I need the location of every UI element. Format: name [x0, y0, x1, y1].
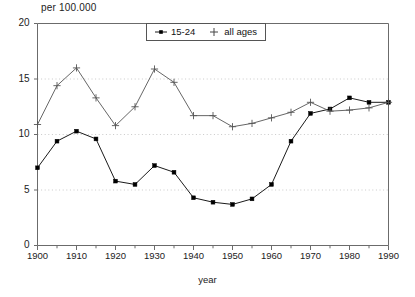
data-point	[346, 106, 353, 113]
data-point	[211, 200, 215, 204]
y-tick-label: 10	[4, 128, 30, 139]
x-tick-label: 1940	[174, 250, 214, 261]
chart-legend: 15-24all ages	[146, 23, 266, 41]
data-point	[365, 104, 372, 111]
x-tick-label: 1900	[18, 250, 58, 261]
legend-item-all-ages: all ages	[207, 27, 257, 37]
x-axis-title: year	[0, 274, 415, 285]
data-point	[55, 139, 59, 143]
data-point	[307, 99, 314, 106]
data-point	[229, 123, 236, 130]
data-point	[114, 179, 118, 183]
data-point	[248, 120, 255, 127]
data-point	[170, 79, 177, 86]
data-point	[151, 65, 158, 72]
x-tick-label: 1950	[213, 250, 253, 261]
data-point	[34, 121, 41, 128]
data-point	[153, 164, 157, 168]
data-point	[289, 139, 293, 143]
legend-label: 15-24	[171, 27, 195, 37]
data-point	[94, 137, 98, 141]
data-point	[268, 114, 275, 121]
data-point	[231, 203, 235, 207]
data-point	[192, 196, 196, 200]
data-point	[133, 183, 137, 187]
x-tick-label: 1960	[252, 250, 292, 261]
x-tick-label: 1970	[291, 250, 331, 261]
data-point	[367, 100, 371, 104]
data-point	[348, 96, 352, 100]
data-point	[270, 183, 274, 187]
x-tick-label: 1980	[330, 250, 370, 261]
x-tick-label: 1910	[57, 250, 97, 261]
data-point	[36, 166, 40, 170]
chart-container: per 100.000 05101520 1900191019201930194…	[0, 0, 415, 297]
y-tick-label: 15	[4, 73, 30, 84]
data-point	[209, 112, 216, 119]
data-point	[385, 99, 392, 106]
data-point	[190, 112, 197, 119]
y-tick-label: 5	[4, 184, 30, 195]
data-point	[92, 94, 99, 101]
data-point	[75, 129, 79, 133]
y-tick-label: 0	[4, 239, 30, 250]
square-marker-icon	[154, 27, 168, 37]
plus-marker-icon	[207, 27, 221, 37]
legend-label: all ages	[224, 27, 257, 37]
data-point	[172, 170, 176, 174]
x-tick-label: 1930	[135, 250, 175, 261]
data-point	[250, 197, 254, 201]
data-point	[287, 109, 294, 116]
x-tick-label: 1990	[369, 250, 409, 261]
y-tick-label: 20	[4, 17, 30, 28]
data-point	[326, 108, 333, 115]
legend-item-15-24: 15-24	[154, 27, 195, 37]
data-point	[309, 112, 313, 116]
x-tick-label: 1920	[96, 250, 136, 261]
